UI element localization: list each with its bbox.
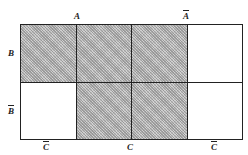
label-b: B [8,49,14,58]
karnaugh-grid [20,24,243,140]
label-not-a: A [183,12,189,21]
cell-notb-col1 [21,83,77,139]
divider-row [21,82,242,83]
label-a: A [74,12,80,21]
label-not-c-left: C [43,143,49,152]
cell-b-col2 [77,25,132,83]
cell-notb-col4 [188,83,242,139]
cell-b-col1 [21,25,77,83]
cell-notb-col2 [77,83,132,139]
label-c: C [127,143,133,152]
label-not-b: B [8,107,14,116]
label-not-c-right: C [211,143,217,152]
cell-b-col4 [188,25,242,83]
cell-notb-col3 [132,83,188,139]
cell-b-col3 [132,25,188,83]
